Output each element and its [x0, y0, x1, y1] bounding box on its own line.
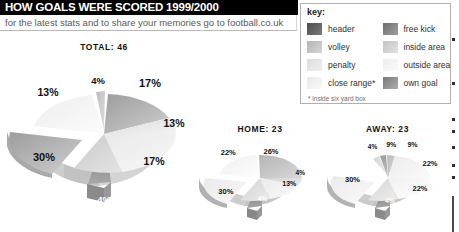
- legend-item[interactable]: free kick: [377, 20, 453, 38]
- pie-slice-label: 26%: [263, 146, 278, 155]
- legend-swatch-icon: [383, 77, 398, 89]
- legend-swatch-icon: [307, 59, 322, 71]
- legend-swatch-icon: [307, 41, 322, 53]
- bullet-icon: [452, 38, 455, 41]
- pie-slice-label: 9%: [407, 141, 417, 148]
- pie-slice-label: 13%: [37, 86, 58, 98]
- pie-slice-label: 4%: [296, 168, 305, 175]
- pie-slice-label: 4%: [258, 195, 267, 202]
- bullet-icon: [452, 176, 455, 179]
- chart-away-svg: [325, 138, 450, 230]
- pie-slice-label: 9%: [386, 141, 396, 148]
- legend-swatch-icon: [307, 77, 322, 89]
- edge-vertical-rule: [452, 196, 454, 232]
- chart-away-pie: 9%9%22%22%4%30%4%: [325, 124, 450, 230]
- legend-item-label: free kick: [404, 24, 436, 34]
- legend-item[interactable]: penalty: [301, 56, 377, 74]
- pie-slice-label: 4%: [91, 74, 105, 85]
- infographic-root: HOW GOALS WERE SCORED 1999/2000 for the …: [0, 0, 459, 232]
- chart-home-svg: [199, 138, 321, 230]
- legend-column-left: headervolleypenaltyclose range*: [301, 18, 377, 94]
- legend-swatch-icon: [383, 59, 398, 71]
- legend-columns: headervolleypenaltyclose range* free kic…: [301, 18, 452, 94]
- chart-total-pie: 4%17%13%17%4%30%13%: [4, 42, 204, 222]
- bullet-icon: [452, 118, 455, 121]
- pie-slice-label: 13%: [163, 117, 184, 129]
- pie-slice-label: 30%: [33, 151, 55, 163]
- legend-box: key: headervolleypenaltyclose range* fre…: [300, 3, 451, 104]
- bullet-icon: [452, 146, 455, 149]
- legend-item[interactable]: volley: [301, 38, 377, 56]
- pie-slice-label: 17%: [139, 77, 161, 89]
- legend-swatch-icon: [307, 23, 322, 35]
- pie-slice-label: 22%: [422, 159, 437, 168]
- legend-swatch-icon: [383, 23, 398, 35]
- legend-footnote: * inside six yard box: [308, 95, 366, 102]
- pie-slice-label: 4%: [385, 197, 394, 204]
- chart-home-pie: 26%4%13%4%30%22%: [199, 124, 321, 230]
- legend-item-label: close range*: [328, 78, 375, 88]
- pie-slice-label: 4%: [368, 143, 377, 150]
- pie-slice-label: 17%: [143, 155, 164, 167]
- legend-item[interactable]: close range*: [301, 74, 377, 92]
- pie-slice-label: 30%: [218, 186, 233, 195]
- pie-slice-label: 13%: [282, 180, 296, 187]
- legend-item[interactable]: inside area: [377, 38, 453, 56]
- legend-item-label: penalty: [328, 60, 355, 70]
- legend-swatch-icon: [383, 41, 398, 53]
- legend-item-label: own goal: [404, 78, 438, 88]
- legend-item-label: outside area: [404, 60, 451, 70]
- legend-item-label: header: [328, 24, 354, 34]
- legend-column-right: free kickinside areaoutside areaown goal: [377, 18, 453, 94]
- legend-item[interactable]: header: [301, 20, 377, 38]
- legend-item-label: inside area: [404, 42, 446, 52]
- subtitle-text: for the latest stats and to share your m…: [5, 17, 283, 28]
- pie-slice-label: 30%: [345, 175, 360, 184]
- bullet-icon: [452, 130, 455, 133]
- legend-item[interactable]: outside area: [377, 56, 453, 74]
- bullet-icon: [452, 164, 455, 167]
- chart-total: TOTAL: 46: [4, 42, 204, 222]
- subtitle-bar: for the latest stats and to share your m…: [0, 15, 297, 31]
- legend-title: key:: [307, 7, 325, 17]
- chart-away: AWAY: 23: [325, 124, 450, 230]
- title-bar: HOW GOALS WERE SCORED 1999/2000: [0, 0, 298, 15]
- page-title: HOW GOALS WERE SCORED 1999/2000: [5, 1, 219, 13]
- legend-item[interactable]: own goal: [377, 74, 453, 92]
- pie-slice-label: 22%: [412, 183, 427, 192]
- chart-home: HOME: 23: [199, 124, 321, 230]
- bullet-icon: [452, 82, 455, 85]
- pie-slice-label: 22%: [221, 147, 236, 156]
- legend-item-label: volley: [328, 42, 350, 52]
- pie-slice-label: 4%: [97, 193, 111, 204]
